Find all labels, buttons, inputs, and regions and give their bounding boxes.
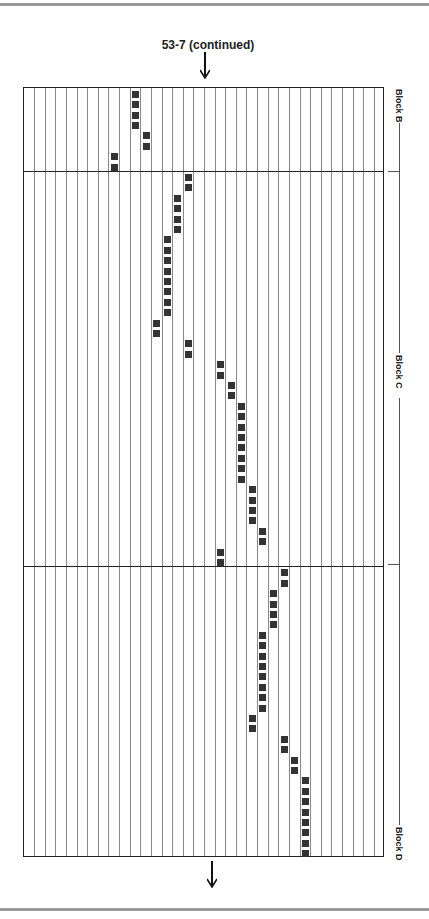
grid-column-line [87,88,88,856]
grid-column-line [236,88,237,856]
filled-cell [302,809,309,816]
grid-column-line [183,88,184,856]
filled-cell [259,663,266,670]
grid-column-line [215,88,216,856]
filled-cell [132,112,139,119]
filled-cell [164,268,171,275]
filled-cell [111,164,118,171]
grid-column-line [289,88,290,856]
filled-cell [249,715,256,722]
filled-cell [249,486,256,493]
grid-column-line [45,88,46,856]
filled-cell [270,590,277,597]
grid-column-line [374,88,375,856]
grid-column-line [66,88,67,856]
filled-cell [238,434,245,441]
grid-column-line [140,88,141,856]
filled-cell [164,257,171,264]
block-c-bracket-line-upper [399,171,400,353]
filled-cell [164,278,171,285]
filled-cell [249,517,256,524]
filled-cell [270,621,277,628]
filled-cell [238,413,245,420]
grid-column-line [98,88,99,856]
grid-column-line [321,88,322,856]
filled-cell [259,642,266,649]
block-c-label: Block C [393,355,405,389]
filled-cell [281,736,288,743]
grid-column-line [55,88,56,856]
filled-cell [281,746,288,753]
grid-column-line [130,88,131,856]
block-d-label: Block D [393,827,405,861]
grid-column-line [119,88,120,856]
block-b-label: Block B [393,89,405,123]
grid-column-line [34,88,35,856]
filled-cell [270,601,277,608]
grid-column-line [172,88,173,856]
filled-cell [174,216,181,223]
filled-cell [259,673,266,680]
filled-cell [143,132,150,139]
filled-cell [164,299,171,306]
filled-cell [270,611,277,618]
filled-cell [132,122,139,129]
filled-cell [185,184,192,191]
filled-cell [132,101,139,108]
filled-cell [143,143,150,150]
arrow-down-icon [205,861,219,888]
filled-cell [238,403,245,410]
filled-cell [111,153,118,160]
filled-cell [153,330,160,337]
filled-cell [249,497,256,504]
grid-column-line [331,88,332,856]
block-b-bracket-line [399,118,400,171]
filled-cell [153,320,160,327]
filled-cell [302,798,309,805]
filled-cell [132,91,139,98]
filled-cell [281,580,288,587]
filled-cell [238,455,245,462]
pattern-grid [23,87,384,857]
filled-cell [302,788,309,795]
block-c-bracket-line-lower [399,398,400,564]
filled-cell [185,340,192,347]
filled-cell [185,351,192,358]
filled-cell [164,309,171,316]
filled-cell [302,840,309,847]
block-d-bracket-line [399,564,400,825]
filled-cell [302,777,309,784]
filled-cell [228,382,235,389]
filled-cell [164,247,171,254]
grid-column-line [193,88,194,856]
block-divider [24,566,383,567]
filled-cell [238,465,245,472]
grid-column-line [151,88,152,856]
filled-cell [291,767,298,774]
filled-cell [174,226,181,233]
filled-cell [249,725,256,732]
grid-column-line [108,88,109,856]
grid-column-line [300,88,301,856]
filled-cell [302,829,309,836]
grid-column-line [268,88,269,856]
grid-column-line [257,88,258,856]
filled-cell [291,757,298,764]
filled-cell [259,538,266,545]
filled-cell [164,288,171,295]
filled-cell [259,528,266,535]
filled-cell [238,444,245,451]
filled-cell [302,819,309,826]
grid-column-line [363,88,364,856]
filled-cell [259,632,266,639]
filled-cell [302,850,309,857]
filled-cell [174,205,181,212]
grid-column-line [342,88,343,856]
block-divider [24,171,383,172]
filled-cell [217,361,224,368]
filled-cell [228,392,235,399]
filled-cell [238,424,245,431]
filled-cell [217,549,224,556]
filled-cell [249,507,256,514]
filled-cell [174,195,181,202]
